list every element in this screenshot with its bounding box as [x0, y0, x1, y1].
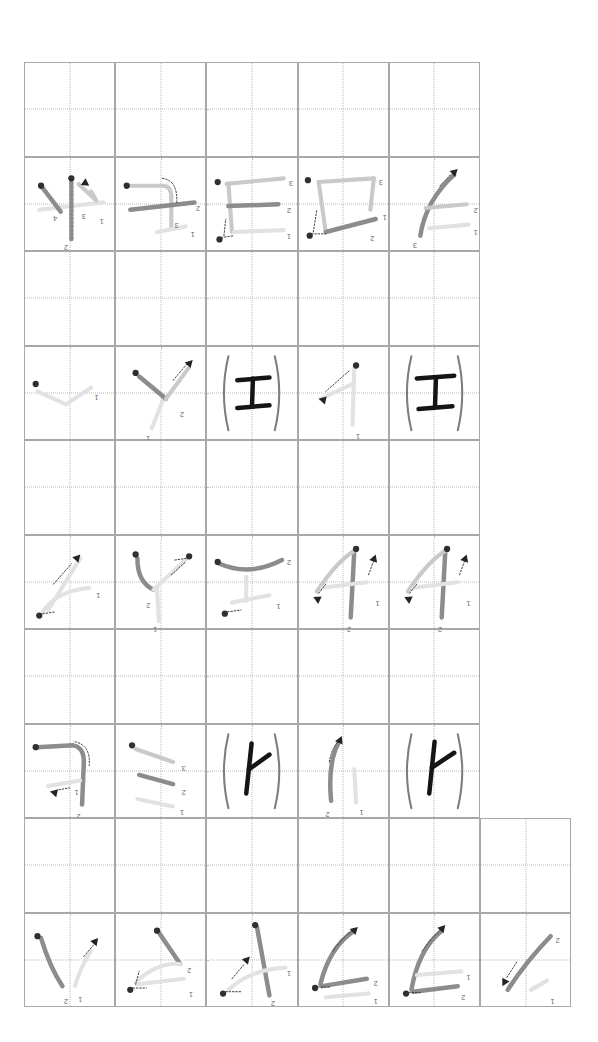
stroke-number-label: 1: [473, 228, 477, 237]
stroke-number-label: 2: [287, 558, 291, 567]
cell-horizontal-guide: [299, 487, 388, 488]
grid-cell-r7-c4: [389, 724, 480, 819]
grid-cell-r4-c4: [389, 440, 480, 535]
cell-horizontal-guide: [299, 676, 388, 677]
grid-cell-r7-c0: 12: [24, 724, 115, 819]
stroke-number-label: 1: [277, 602, 281, 611]
grid-cell-r1-c4: 213: [389, 157, 480, 252]
stroke-number-label: 2: [373, 978, 377, 987]
cell-horizontal-guide: [207, 109, 296, 110]
grid-cell-r1-c2: 321: [206, 157, 297, 252]
grid-cell-r6-c3: [298, 629, 389, 724]
stroke-number-label: 2: [64, 997, 68, 1006]
stroke-drawing-r1-c4: 213: [390, 158, 479, 251]
stroke-number-label: 1: [466, 973, 470, 982]
stroke-drawing-r7-c3: 21: [299, 725, 388, 818]
grid-cell-r3-c4: [389, 346, 480, 441]
stroke-drawing-r1-c2: 321: [207, 158, 296, 251]
grid-cell-r6-c0: [24, 629, 115, 724]
grid-cell-r9-c3: 21: [298, 913, 389, 1008]
grid-cell-r4-c2: [206, 440, 297, 535]
stroke-number-label: 2: [196, 204, 200, 213]
stroke-drawing-r5-c1: 21: [116, 536, 205, 629]
stroke-drawing-r7-c2: [207, 725, 296, 818]
stroke-drawing-r9-c0: 21: [25, 914, 114, 1007]
stroke-number-label: 2: [473, 205, 477, 214]
grid-cell-r3-c3: 1: [298, 346, 389, 441]
grid-cell-r9-c1: 21: [115, 913, 206, 1008]
stroke-drawing-r5-c4: 21: [390, 536, 479, 629]
grid-cell-r8-c3: [298, 818, 389, 913]
cell-horizontal-guide: [299, 109, 388, 110]
cell-horizontal-guide: [390, 676, 479, 677]
stroke-drawing-r1-c3: 321: [299, 158, 388, 251]
grid-cell-r4-c3: [298, 440, 389, 535]
grid-cell-r8-c5: [480, 818, 571, 913]
stroke-number-label: 2: [287, 205, 291, 214]
stroke-number-label: 2: [146, 600, 150, 609]
grid-cell-r3-c0: 1: [24, 346, 115, 441]
stroke-drawing-r3-c1: 21: [116, 347, 205, 440]
grid-cell-r1-c3: 321: [298, 157, 389, 252]
stroke-number-label: 1: [189, 989, 193, 998]
grid-cell-r5-c4: 21: [389, 535, 480, 630]
stroke-number-label: 2: [556, 936, 560, 945]
grid-cell-r0-c3: [298, 62, 389, 157]
cell-horizontal-guide: [116, 487, 205, 488]
stroke-number-label: 3: [182, 763, 186, 772]
grid-cell-r8-c4: [389, 818, 480, 913]
stroke-drawing-r3-c0: 1: [25, 347, 114, 440]
grid-cell-r8-c2: [206, 818, 297, 913]
stroke-number-label: 1: [191, 229, 195, 238]
grid-cell-r5-c1: 21: [115, 535, 206, 630]
grid-cell-r0-c4: [389, 62, 480, 157]
cell-horizontal-guide: [390, 109, 479, 110]
cell-horizontal-guide: [207, 865, 296, 866]
cell-horizontal-guide: [25, 676, 114, 677]
stroke-drawing-r1-c0: 2314: [25, 158, 114, 251]
stroke-number-label: 1: [78, 995, 82, 1004]
cell-horizontal-guide: [481, 865, 570, 866]
stroke-number-label: 3: [175, 220, 179, 229]
grid-cell-r0-c2: [206, 62, 297, 157]
cell-horizontal-guide: [116, 298, 205, 299]
grid-cell-r7-c1: 321: [115, 724, 206, 819]
stroke-number-label: 3: [289, 179, 293, 188]
grid-cell-r2-c4: [389, 251, 480, 346]
stroke-drawing-r7-c4: [390, 725, 479, 818]
stroke-drawing-r9-c5: 21: [481, 914, 570, 1007]
grid-cell-r5-c0: 1: [24, 535, 115, 630]
stroke-drawing-r5-c3: 21: [299, 536, 388, 629]
grid-cell-r6-c1: [115, 629, 206, 724]
stroke-drawing-r7-c1: 321: [116, 725, 205, 818]
stroke-number-label: 3: [379, 178, 383, 187]
stroke-number-label: 2: [461, 993, 465, 1002]
grid-cell-r0-c1: [115, 62, 206, 157]
grid-cell-r3-c2: [206, 346, 297, 441]
cell-horizontal-guide: [299, 865, 388, 866]
stroke-number-label: 1: [180, 808, 184, 817]
stroke-drawing-r3-c4: [390, 347, 479, 440]
stroke-number-label: 2: [180, 409, 184, 418]
stroke-number-label: 1: [466, 598, 470, 607]
grid-cell-r2-c2: [206, 251, 297, 346]
grid-cell-r0-c0: [24, 62, 115, 157]
stroke-drawing-r5-c0: 1: [25, 536, 114, 629]
stroke-number-label: 1: [359, 808, 363, 817]
stroke-number-label: 2: [182, 787, 186, 796]
cell-horizontal-guide: [25, 487, 114, 488]
cell-horizontal-guide: [299, 298, 388, 299]
grid-cell-r2-c3: [298, 251, 389, 346]
grid-cell-r3-c1: 21: [115, 346, 206, 441]
cell-horizontal-guide: [116, 109, 205, 110]
stroke-drawing-r7-c0: 12: [25, 725, 114, 818]
grid-cell-r9-c5: 21: [480, 913, 571, 1008]
stroke-drawing-r5-c2: 21: [207, 536, 296, 629]
stroke-number-label: 3: [82, 212, 86, 221]
grid-cell-r7-c2: [206, 724, 297, 819]
cell-horizontal-guide: [25, 109, 114, 110]
cell-horizontal-guide: [207, 298, 296, 299]
grid-cell-r5-c3: 21: [298, 535, 389, 630]
cell-horizontal-guide: [25, 298, 114, 299]
cell-horizontal-guide: [390, 865, 479, 866]
